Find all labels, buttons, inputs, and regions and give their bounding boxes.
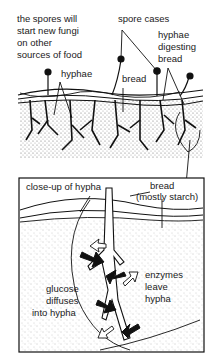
bread-starch-label-1: bread <box>150 180 174 191</box>
glucose-label-1: glucose <box>46 283 79 294</box>
enzymes-label-1: enzymes <box>145 269 183 280</box>
hyphae-digesting-label-3: bread <box>158 53 182 64</box>
spores-label-1: the spores will <box>17 13 77 24</box>
closeup-label: close-up of hypha <box>26 181 101 192</box>
spores-label-2: start new fungi <box>17 25 79 36</box>
bread-label: bread <box>122 73 146 84</box>
hyphae-digesting-label-2: digesting <box>158 41 196 52</box>
hyphae-label: hyphae <box>61 68 92 79</box>
enzymes-label-2: leave <box>145 281 168 292</box>
spores-label-3: on other <box>17 37 52 48</box>
hyphae-digesting-label-1: hyphae <box>158 29 189 40</box>
spores-label-4: sources of food <box>17 49 82 60</box>
spore-cases-label: spore cases <box>118 13 169 24</box>
enzymes-label-3: hypha <box>145 293 171 304</box>
bread-starch-label-2: (mostly starch) <box>136 191 198 202</box>
glucose-label-2: diffuses <box>46 295 79 306</box>
glucose-label-3: into hypha <box>32 307 76 318</box>
